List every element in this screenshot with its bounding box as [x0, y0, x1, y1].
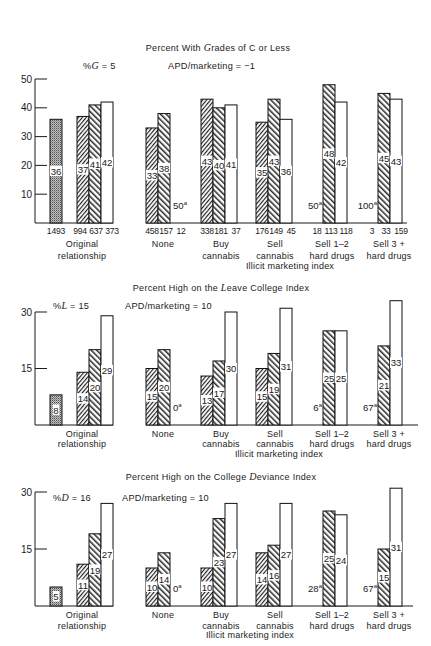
bar-hatched-forward: 33 — [146, 128, 158, 223]
original-relationship-label: relationship — [58, 621, 106, 631]
value-label: 27 — [102, 549, 113, 560]
sample-size-label: 12 — [176, 226, 186, 236]
sample-size-label: 458 — [145, 226, 159, 236]
value-label: 5 — [53, 591, 58, 602]
value-label: 38 — [159, 163, 170, 174]
value-label: 20 — [159, 382, 170, 393]
chart-title-part: Percent With — [146, 43, 204, 53]
overall-percent-label: %L = 15 — [53, 300, 89, 311]
category-label: None — [152, 610, 174, 620]
bar-open: 43 — [390, 99, 402, 223]
category-label: cannabis — [256, 251, 294, 261]
overall-percent-label-part: % — [83, 61, 91, 71]
bar-chart-figure: Percent With Grades of C or Less%G = 5AP… — [0, 0, 431, 646]
category-label: Sell — [267, 610, 283, 620]
category-label: hard drugs — [366, 251, 411, 261]
bar-hatched-backward: 23 — [213, 519, 225, 606]
value-label: 36 — [51, 166, 62, 177]
value-label: 20 — [90, 382, 101, 393]
value-label: 16 — [269, 570, 280, 581]
category-label: Sell — [267, 429, 283, 439]
value-label: 45 — [379, 153, 390, 164]
bar-hatched-backward: 20 — [158, 350, 170, 425]
category-label: Sell — [267, 239, 283, 249]
bar-original-total: 36 — [50, 119, 62, 223]
category-label: None — [152, 429, 174, 439]
value-label: 36 — [281, 166, 292, 177]
bar-hatched-forward: 15 — [256, 369, 268, 426]
value-label: 41 — [226, 159, 237, 170]
value-label: 15 — [379, 572, 390, 583]
sample-size-label: 157 — [159, 226, 173, 236]
chart-title: Percent High on the Leave College Index — [133, 282, 310, 293]
value-label: 30 — [226, 363, 237, 374]
value-label: 43 — [269, 156, 280, 167]
value-label: 43 — [391, 156, 402, 167]
y-tick-label: 40 — [21, 102, 33, 113]
bar-original-hatched-forward: 14 — [77, 372, 89, 425]
footnote-number: 67 — [363, 583, 374, 594]
value-label: 23 — [214, 557, 225, 568]
value-label: 17 — [214, 388, 225, 399]
bar-hatched-forward: 10 — [146, 568, 158, 606]
y-tick-label: 30 — [21, 487, 33, 498]
value-label: 24 — [336, 555, 347, 566]
value-label: 35 — [257, 167, 268, 178]
category-label: Sell 1–2 — [315, 429, 349, 439]
value-label: 42 — [336, 157, 347, 168]
value-label: 40 — [214, 160, 225, 171]
x-axis-title: Illicit marketing index — [235, 449, 323, 459]
bar-original-hatched-backward: 41 — [89, 105, 101, 223]
y-tick-label: 15 — [21, 363, 33, 374]
bar-hatched-forward: 13 — [201, 376, 213, 425]
value-label: 19 — [90, 565, 101, 576]
bar-open: 25 — [335, 331, 347, 425]
sample-size-label: 118 — [339, 226, 353, 236]
footnote-number: 50 — [173, 200, 184, 211]
bar-hatched-backward: 38 — [158, 114, 170, 223]
category-label: None — [152, 239, 174, 249]
bar-hatched-forward: 15 — [146, 369, 158, 426]
category-label: hard drugs — [309, 621, 354, 631]
chart-title-part: Percent High on the — [133, 283, 221, 293]
apd-marketing-label: APD/marketing = 10 — [122, 493, 209, 503]
sample-size-label: 3 — [370, 226, 375, 236]
overall-percent-label-part: G — [91, 60, 98, 71]
sample-size-label: 159 — [394, 226, 408, 236]
bar-original-hatched-backward: 20 — [89, 350, 101, 425]
value-label: 37 — [78, 164, 89, 175]
bar-hatched-backward: 48 — [323, 85, 335, 223]
bar-hatched-backward: 40 — [213, 108, 225, 223]
value-label: 29 — [102, 365, 113, 376]
value-label: 25 — [324, 373, 335, 384]
bar-original-hatched-forward: 37 — [77, 116, 89, 223]
value-label: 27 — [226, 549, 237, 560]
sample-size-label: 33 — [381, 226, 391, 236]
sample-size-label: 338 — [200, 226, 214, 236]
bar-open: 42 — [335, 102, 347, 223]
x-axis-title: Illicit marketing index — [206, 630, 294, 640]
category-label: cannabis — [256, 439, 294, 449]
y-tick-label: 30 — [21, 307, 33, 318]
category-label: Sell 3 + — [373, 610, 405, 620]
sample-size-label: 45 — [286, 226, 296, 236]
bar-open: 27 — [225, 503, 237, 606]
overall-percent-label-part: % — [53, 301, 61, 311]
original-relationship-label: Original — [66, 610, 99, 620]
sample-size-label: 37 — [231, 226, 241, 236]
value-label: 41 — [90, 159, 101, 170]
value-label: 13 — [202, 395, 213, 406]
sample-size-label: 373 — [105, 226, 119, 236]
bar-hatched-forward: 14 — [256, 553, 268, 606]
category-label: hard drugs — [309, 251, 354, 261]
bar-hatched-backward: 15 — [378, 549, 390, 606]
value-label: 14 — [159, 574, 170, 585]
bar-original-open: 29 — [101, 316, 113, 425]
bar-hatched-backward: 17 — [213, 361, 225, 425]
bar-original-open: 42 — [101, 102, 113, 223]
original-relationship-label: Original — [66, 239, 99, 249]
chart-title: Percent High on the College Deviance Ind… — [126, 471, 317, 482]
footnote-number: 28 — [308, 583, 319, 594]
bar-open: 36 — [280, 119, 292, 223]
bar-hatched-backward: 14 — [158, 553, 170, 606]
